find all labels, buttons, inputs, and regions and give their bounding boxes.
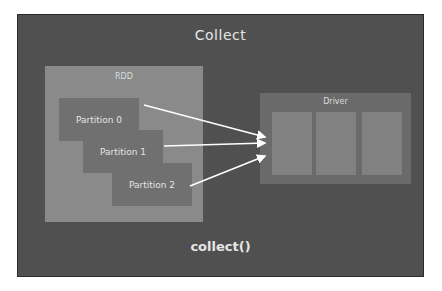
partition-2-label: Partition 2 — [129, 180, 175, 190]
diagram-frame: Collect RDD Partition 0 Partition 1 Part… — [17, 14, 424, 277]
driver-label: Driver — [260, 97, 411, 106]
rdd-label: RDD — [45, 72, 203, 81]
diagram-footer: collect() — [18, 239, 423, 254]
driver-slot — [362, 112, 402, 175]
partition-0-label: Partition 0 — [76, 115, 122, 125]
driver-slot — [272, 112, 312, 175]
rdd-box: RDD Partition 0 Partition 1 Partition 2 — [45, 66, 203, 222]
driver-slot — [316, 112, 356, 175]
diagram-title: Collect — [18, 27, 423, 43]
partition-1-label: Partition 1 — [100, 147, 146, 157]
partition-2: Partition 2 — [112, 163, 192, 206]
driver-box: Driver — [260, 93, 411, 184]
